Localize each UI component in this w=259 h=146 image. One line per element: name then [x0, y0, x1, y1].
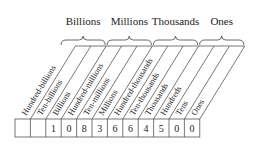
digit-cell: 0 [190, 123, 195, 134]
group-brace [200, 36, 244, 45]
digit-row: 1083664500 [15, 119, 200, 137]
group-label: Ones [210, 15, 233, 27]
digit-cell: 1 [51, 123, 56, 134]
group-brace [61, 36, 105, 45]
group-labels: BillionsMillionsThousandsOnes [66, 15, 233, 27]
group-label: Millions [111, 15, 148, 27]
group-brace [153, 36, 197, 45]
digit-cell: 0 [66, 123, 71, 134]
group-brace [107, 36, 151, 45]
place-value-chart: BillionsMillionsThousandsOnes Hundred-bi… [0, 0, 259, 146]
digit-cell: 5 [159, 123, 164, 134]
digit-cell: 6 [128, 123, 133, 134]
group-label: Thousands [152, 15, 200, 27]
place-value-diagram: BillionsMillionsThousandsOnes Hundred-bi… [0, 0, 259, 146]
column-label: Ones [190, 98, 207, 117]
digit-cell: 4 [143, 123, 148, 134]
digit-cell: 8 [82, 123, 87, 134]
digit-cell: 6 [113, 123, 118, 134]
digit-cell: 0 [174, 123, 179, 134]
column-labels: Hundred-billionsTen-billionsBillionsHund… [20, 56, 206, 117]
digit-cell: 3 [97, 123, 102, 134]
group-braces [61, 36, 244, 45]
group-label: Billions [66, 15, 101, 27]
